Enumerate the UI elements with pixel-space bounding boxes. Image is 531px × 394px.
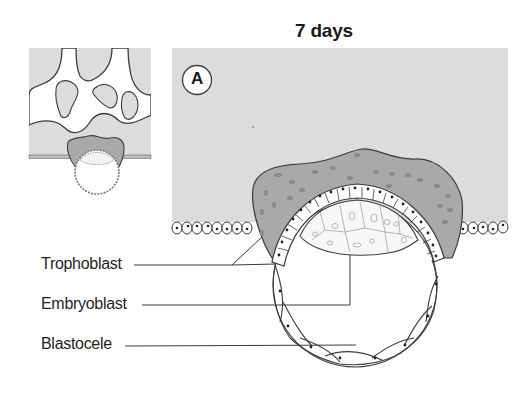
figure-title: 7 days bbox=[274, 20, 374, 42]
overview-panel bbox=[29, 48, 151, 194]
label-trophoblast: Trophoblast bbox=[41, 255, 122, 273]
panel-label: A bbox=[190, 69, 204, 89]
label-blastocele: Blastocele bbox=[41, 335, 112, 353]
label-embryoblast: Embryoblast bbox=[41, 295, 127, 313]
main-panel bbox=[125, 7, 508, 367]
